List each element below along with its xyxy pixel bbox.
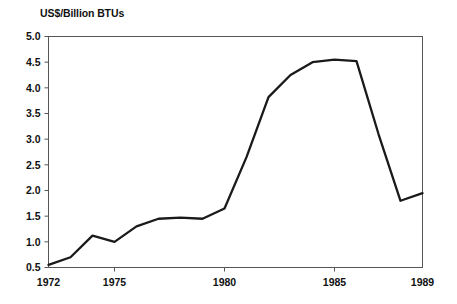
y-axis-tick-label: 3.5 <box>26 107 41 119</box>
y-axis-tick-label: 1.5 <box>26 210 41 222</box>
y-axis-tick-label: 1.0 <box>26 236 41 248</box>
data-series-line <box>49 60 423 265</box>
x-axis-tick-group: 19721975198019851989 <box>37 268 435 288</box>
y-axis-tick-group: 5.04.54.03.53.02.52.01.51.00.5 <box>26 30 49 273</box>
y-axis-tick-label: 0.5 <box>26 261 41 273</box>
x-axis-tick-label: 1980 <box>213 276 237 288</box>
x-axis-tick-label: 1985 <box>323 276 347 288</box>
x-axis-tick-label: 1975 <box>103 276 127 288</box>
chart-container: US$/Billion BTUs 5.04.54.03.53.02.52.01.… <box>0 0 457 304</box>
x-axis-tick-label: 1989 <box>411 276 435 288</box>
y-axis-tick-label: 4.0 <box>26 82 41 94</box>
y-axis-tick-label: 2.5 <box>26 159 41 171</box>
line-chart-svg: 5.04.54.03.53.02.52.01.51.00.5 197219751… <box>0 0 457 304</box>
y-axis-tick-label: 4.5 <box>26 56 41 68</box>
plot-frame <box>49 37 423 268</box>
y-axis-tick-label: 3.0 <box>26 133 41 145</box>
y-axis-tick-label: 5.0 <box>26 30 41 42</box>
x-axis-tick-label: 1972 <box>37 276 61 288</box>
y-axis-tick-label: 2.0 <box>26 184 41 196</box>
